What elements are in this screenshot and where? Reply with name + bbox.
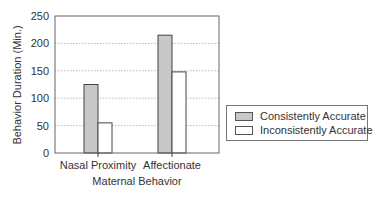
x-tick-label: Nasal Proximity — [60, 159, 137, 171]
bar — [84, 85, 98, 154]
y-tick-label: 100 — [31, 92, 49, 104]
legend-label: Consistently Accurate — [260, 110, 366, 122]
bar — [158, 35, 172, 153]
y-tick-label: 0 — [43, 147, 49, 159]
legend-item-consistently-accurate: Consistently Accurate — [235, 109, 366, 123]
x-axis-ticks: Nasal ProximityAffectionate — [60, 153, 201, 171]
plot-frame — [55, 16, 219, 153]
y-tick-label: 250 — [31, 10, 49, 22]
bar — [172, 72, 186, 153]
y-tick-label: 200 — [31, 37, 49, 49]
bar — [98, 123, 112, 153]
legend-item-inconsistently-accurate: Inconsistently Accurate — [235, 123, 373, 137]
legend-swatch-gray — [235, 112, 253, 121]
gridlines — [55, 43, 219, 125]
legend-swatch-white — [235, 126, 253, 135]
y-axis-label: Behavior Duration (Min.) — [11, 25, 23, 144]
legend-label: Inconsistently Accurate — [260, 124, 373, 136]
bars — [84, 35, 186, 153]
y-axis-ticks: 050100150200250 — [31, 10, 49, 159]
y-tick-label: 50 — [37, 120, 49, 132]
bar-chart: 050100150200250 Nasal ProximityAffection… — [0, 0, 383, 199]
x-tick-label: Affectionate — [143, 159, 201, 171]
legend: Consistently Accurate Inconsistently Acc… — [226, 105, 368, 141]
y-tick-label: 150 — [31, 65, 49, 77]
x-axis-label: Maternal Behavior — [92, 175, 182, 187]
